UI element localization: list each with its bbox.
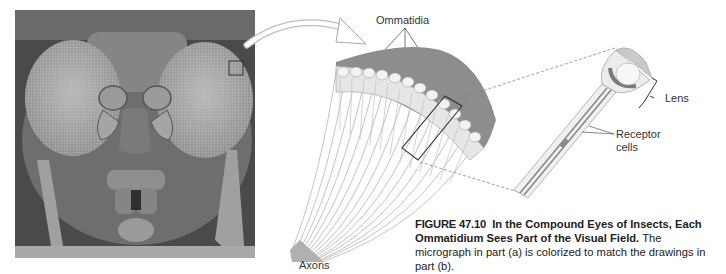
figure-caption: FIGURE 47.10 In the Compound Eyes of Ins… bbox=[415, 217, 720, 273]
lens-label: Lens bbox=[665, 92, 689, 105]
enlarged-ommatidium bbox=[514, 48, 652, 198]
receptor-cells-label: Receptor cells bbox=[616, 128, 661, 154]
ommatidia-label: Ommatidia bbox=[376, 14, 429, 27]
axons-label: Axons bbox=[299, 259, 330, 272]
figure-number: FIGURE 47.10 bbox=[415, 218, 486, 230]
